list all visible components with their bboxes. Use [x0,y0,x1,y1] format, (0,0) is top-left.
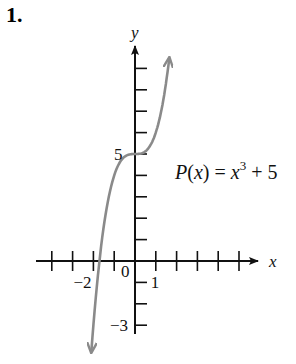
x-axis-label: x [268,252,277,271]
cubic-function-graph: xy−2015−3P(x) = x3 + 5 [0,0,296,364]
axes [36,46,258,334]
y-tick-label: −3 [110,316,128,335]
x-tick-label: 1 [151,273,160,292]
x-tick-label: 0 [121,262,130,281]
y-tick-label: 5 [114,145,123,164]
y-axis-label: y [129,23,139,42]
function-label: P(x) = x3 + 5 [174,158,277,184]
axis-labels: xy−2015−3P(x) = x3 + 5 [73,23,277,335]
curve-p-of-x [91,58,169,352]
x-tick-label: −2 [73,273,91,292]
